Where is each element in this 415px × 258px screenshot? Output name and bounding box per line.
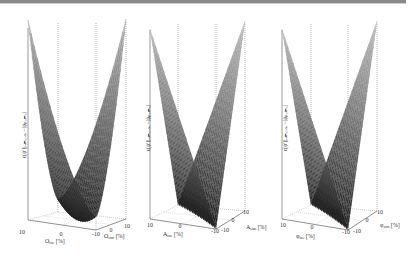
x-tick-label: -10: [92, 231, 100, 237]
z-axis-label: ϵ(ψ′)|ₒₑₘ꜀ₐₛₑ −|ψₚ꜀ₘ꜀|: [145, 105, 152, 152]
x-tick-label: 0: [60, 231, 63, 237]
y-tick-label: 0: [232, 217, 235, 223]
y-axis-label: φsim [%]: [380, 222, 400, 229]
y-tick-label: 10: [124, 223, 130, 229]
y-tick-label: 10: [243, 209, 249, 215]
y-tick-label: -10: [221, 227, 229, 233]
x-axis-label: φine [%]: [296, 233, 315, 240]
x-tick-label: -10: [342, 229, 350, 235]
y-axis-label: Asim [%]: [246, 224, 267, 231]
surface-plot-phase: [282, 21, 377, 230]
x-axis-label: Aine [%]: [163, 231, 183, 238]
surface-patch: [150, 29, 154, 45]
x-tick-label: -10: [211, 228, 219, 234]
surface-patch: [28, 20, 32, 45]
figure-canvas: 10 0 -10 0 10 Oine [%] Osim [%] ϵ(ψ′)|ₒₑ…: [0, 0, 415, 258]
x-tick-label: 10: [280, 222, 286, 228]
y-axis-label: Osim [%]: [104, 233, 125, 240]
surface-patch: [282, 29, 286, 45]
surface-plot-amplitude: [150, 21, 245, 229]
x-axis-label: Oine [%]: [45, 238, 65, 245]
surface-plot-offset: [28, 19, 126, 230]
x-tick-label: 0: [179, 223, 182, 229]
z-axis-label: ϵ(ψ′)|ₒₑₘ꜀ₐₛₑ −|ψₚ꜀ₘ꜀|: [282, 105, 289, 152]
z-axis-label: ϵ(ψ′)|ₒₑₘ꜀ₐₛₑ −|ψₚ꜀ₘ꜀|: [21, 112, 28, 159]
x-tick-label: 10: [19, 229, 25, 235]
x-tick-label: 0: [311, 224, 314, 230]
x-tick-label: 10: [147, 222, 153, 228]
y-tick-label: -10: [353, 228, 361, 234]
y-tick-label: 10: [377, 209, 383, 215]
y-tick-label: 0: [366, 217, 369, 223]
y-tick-label: 0: [110, 227, 113, 233]
